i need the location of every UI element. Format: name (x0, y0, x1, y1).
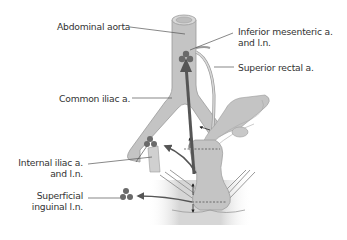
label-internal-iliac-line2: and l.n. (50, 168, 83, 179)
label-superficial-inguinal-line2: inguinal l.n. (32, 201, 83, 212)
label-inferior-mesenteric: Inferior mesenteric a. (238, 26, 333, 37)
leader-inferior-mesenteric (190, 33, 233, 50)
label-abdominal-aorta: Abdominal aorta (57, 21, 130, 32)
label-superior-rectal: Superior rectal a. (238, 62, 314, 73)
label-common-iliac: Common iliac a. (59, 93, 130, 104)
label-internal-iliac: Internal iliac a. (18, 157, 83, 168)
leader-internal-iliac (88, 157, 152, 164)
internal-iliac-artery (148, 146, 160, 172)
superficial-inguinal-lymph-nodes (120, 188, 133, 200)
label-inferior-mesenteric-line2: and l.n. (238, 37, 271, 48)
label-superficial-inguinal: Superficial (37, 190, 83, 201)
